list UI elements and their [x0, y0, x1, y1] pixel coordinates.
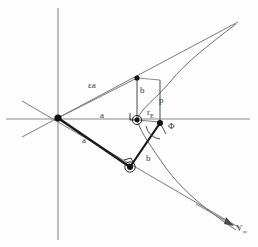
- b-to-p-connector: [137, 78, 160, 80]
- periapsis-point-dot: [135, 118, 140, 123]
- velocity-arrow-head: [224, 217, 234, 226]
- label-velocity-infinity: V∞: [236, 224, 247, 235]
- figure-container: εa a a b b p rE Φ V∞: [0, 0, 258, 247]
- label-semi-major-axis-on-axis: a: [100, 111, 104, 120]
- radius-to-lower-node: [58, 118, 130, 167]
- upper-b-point-dot: [134, 75, 139, 80]
- label-radius-periapsis: rE: [147, 108, 154, 119]
- label-semi-minor-axis-lower: b: [146, 154, 151, 163]
- label-semi-major-axis-on-radius: a: [82, 136, 86, 145]
- center-point-dot: [54, 114, 61, 121]
- label-semi-latus-rectum: p: [159, 96, 164, 105]
- lower-node-dot: [127, 164, 133, 170]
- label-velocity-subscript: ∞: [243, 228, 248, 235]
- label-semi-minor-axis-upper: b: [140, 86, 145, 95]
- hyperbolic-orbit-diagram: [0, 0, 258, 247]
- focus-point-dot: [157, 120, 163, 126]
- label-radius-subscript: E: [150, 112, 154, 119]
- label-epsilon-a: εa: [88, 81, 96, 90]
- radius-to-upper-b: [58, 78, 137, 118]
- periapsis-radius-segment: [137, 120, 160, 122]
- hyperbola-branch: [137, 24, 236, 230]
- label-deflection-angle: Φ: [168, 122, 175, 131]
- semi-minor-axis-lower-segment: [130, 123, 160, 167]
